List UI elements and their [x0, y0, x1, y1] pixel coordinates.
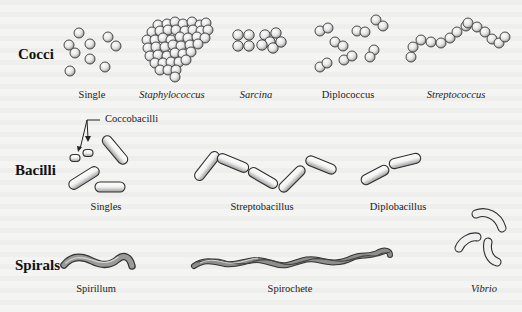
- cocci-single-illustration: [64, 28, 121, 76]
- caption-streptobacillus: Streptobacillus: [231, 201, 294, 212]
- row-label-spirals: Spirals: [15, 257, 60, 274]
- row-label-cocci: Cocci: [18, 46, 54, 63]
- cocci-diplococcus-illustration: [315, 15, 388, 72]
- spirochete-illustration: [194, 251, 390, 266]
- caption-streptococcus: Streptococcus: [427, 89, 486, 100]
- cocci-sarcina-illustration: [233, 28, 286, 53]
- bacilli-streptobacillus-illustration: [193, 150, 338, 195]
- caption-spirochete: Spirochete: [268, 283, 313, 294]
- callout-coccobacilli: Coccobacilli: [105, 113, 158, 124]
- caption-sarcina: Sarcina: [240, 89, 272, 100]
- cocci-streptococcus-illustration: [406, 18, 510, 62]
- bacilli-diplobacillus-illustration: [359, 152, 421, 186]
- morphology-diagram: [0, 0, 522, 312]
- caption-diplococcus: Diplococcus: [322, 89, 375, 100]
- caption-singles: Singles: [91, 201, 122, 212]
- bacilli-singles-illustration: [67, 134, 130, 192]
- caption-spirillum: Spirillum: [76, 283, 116, 294]
- coccobacilli-callout-arrows: [77, 120, 100, 152]
- spirillum-illustration: [64, 257, 132, 266]
- caption-diplobacillus: Diplobacillus: [370, 201, 427, 212]
- caption-single: Single: [79, 89, 106, 100]
- caption-staphylococcus: Staphylococcus: [139, 89, 204, 100]
- vibrio-illustration: [459, 213, 502, 262]
- caption-vibrio: Vibrio: [471, 283, 497, 294]
- row-label-bacilli: Bacilli: [15, 162, 56, 179]
- cocci-staphylococcus-illustration: [142, 17, 213, 82]
